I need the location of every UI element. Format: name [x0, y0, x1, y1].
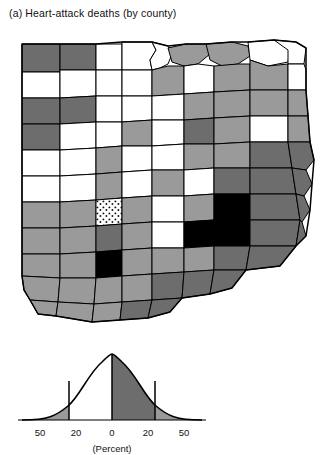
county-shape: [92, 302, 122, 322]
county-shape: [122, 120, 152, 146]
county-shape: [22, 228, 60, 254]
map-svg: [0, 20, 332, 350]
county-shape: [122, 70, 152, 96]
county-shape: [250, 194, 300, 220]
county-shape: [250, 116, 288, 142]
legend-svg: 50 20 0 20 50 (Percent): [0, 348, 332, 455]
county-shape: [22, 124, 60, 150]
county-shape: [22, 72, 60, 98]
county-shape: [168, 44, 210, 66]
county-shape: [184, 246, 214, 272]
legend-band-20-50: [155, 348, 189, 422]
county-shape: [184, 92, 214, 120]
county-shape: [22, 98, 60, 124]
legend-band-minus50-minus20: [35, 348, 69, 422]
county-shape: [152, 222, 184, 248]
county-shape: [152, 66, 184, 96]
legend-band-below-50: [18, 348, 35, 422]
county-shape: [22, 202, 60, 228]
county-shape: [96, 44, 122, 70]
county-shape: [184, 144, 214, 170]
county-shape: [152, 144, 184, 170]
county-shape: [22, 150, 60, 176]
county-shape: [210, 270, 246, 294]
county-shape: [122, 146, 152, 172]
choropleth-map: [0, 20, 332, 350]
county-shape: [152, 94, 184, 120]
county-shape: [184, 64, 214, 94]
county-shape: [214, 194, 250, 220]
county-shape: [214, 220, 250, 246]
county-shape: [184, 168, 214, 196]
county-shape: [94, 276, 122, 304]
county-shape: [122, 96, 152, 122]
county-shape: [122, 170, 152, 198]
county-shape: [214, 142, 250, 168]
county-shape: [214, 246, 250, 270]
county-shape: [96, 96, 122, 122]
legend-axis-title: (Percent): [92, 443, 131, 454]
county-shape: [22, 44, 60, 72]
county-shape: [214, 116, 250, 144]
county-shape: [96, 172, 122, 200]
legend-tick-label: 50: [35, 427, 46, 438]
county-shape: [288, 142, 314, 170]
figure-panel: (a) Heart-attack deaths (by county): [0, 0, 332, 455]
county-shape: [60, 122, 96, 150]
county-shape: [122, 222, 152, 250]
county-shape: [60, 252, 96, 278]
county-shape: [152, 196, 184, 222]
county-shape: [60, 226, 96, 254]
county-shape: [152, 248, 184, 274]
county-shape: [60, 200, 96, 228]
county-shape: [148, 298, 182, 318]
county-shape: [214, 64, 250, 92]
county-shape: [152, 120, 184, 146]
county-shape: [152, 170, 184, 196]
county-shape: [288, 64, 306, 90]
county-layer: [22, 40, 314, 322]
county-shape: [60, 174, 96, 202]
county-shape: [96, 146, 122, 174]
county-shape: [96, 122, 122, 148]
county-shape: [122, 196, 152, 224]
legend-band-above-50: [189, 348, 211, 422]
legend-tick-label: 0: [109, 427, 114, 438]
county-shape: [96, 250, 122, 278]
county-shape: [60, 148, 96, 176]
county-shape: [184, 194, 214, 222]
legend-tick-label: 20: [143, 427, 154, 438]
county-shape: [250, 168, 296, 194]
county-shape: [22, 276, 60, 302]
county-shape: [58, 278, 96, 304]
figure-title: (a) Heart-attack deaths (by county): [9, 7, 176, 19]
county-shape: [60, 70, 96, 98]
county-shape: [250, 220, 300, 246]
county-shape: [122, 274, 152, 302]
county-shape: [22, 254, 60, 278]
legend-tick-label: 50: [179, 427, 190, 438]
county-shape: [120, 300, 152, 320]
county-shape: [214, 90, 250, 118]
county-shape: [96, 70, 122, 96]
county-shape: [214, 168, 250, 194]
county-shape: [122, 248, 152, 276]
county-shape: [288, 116, 310, 142]
legend-bell-curve: 50 20 0 20 50 (Percent): [0, 348, 332, 455]
county-shape: [22, 176, 60, 202]
county-shape: [96, 224, 122, 252]
county-shape: [152, 272, 184, 300]
county-shape: [288, 90, 308, 116]
county-shape: [96, 198, 122, 226]
legend-tick-label: 20: [71, 427, 82, 438]
county-shape: [250, 142, 292, 168]
county-shape: [184, 220, 214, 248]
legend-bands: [18, 348, 211, 422]
county-shape: [206, 42, 250, 66]
county-shape: [184, 118, 214, 144]
county-shape: [250, 90, 288, 116]
county-shape: [60, 96, 96, 124]
county-shape: [60, 44, 96, 70]
